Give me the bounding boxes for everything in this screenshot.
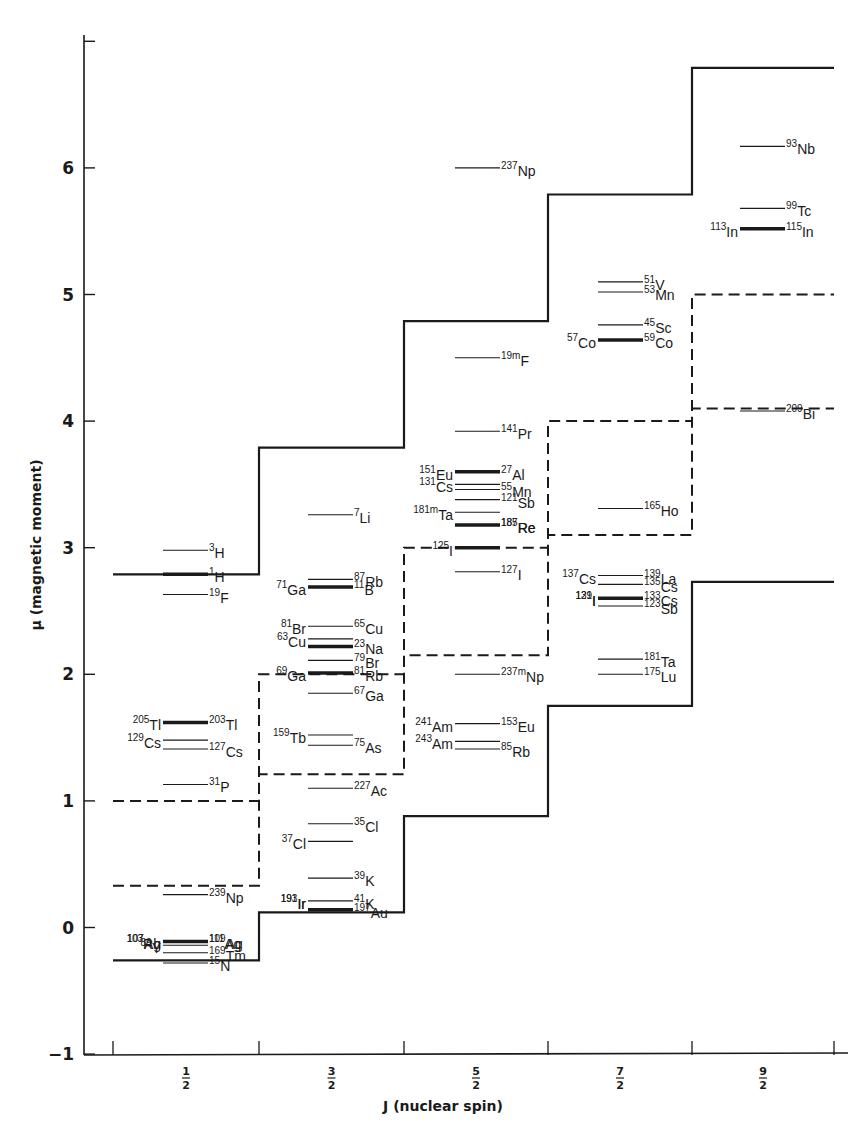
- nuclide-label-237Np: 237Np: [501, 160, 536, 179]
- y-tick-label: −1: [48, 1044, 74, 1064]
- nuclide-label-99Tc: 99Tc: [786, 200, 811, 219]
- nuclide-label-237mNp: 237mNp: [501, 666, 544, 685]
- nuclide-level: 75As: [308, 737, 381, 756]
- nuclide-level: 39K: [308, 870, 375, 889]
- nuclide-label-125I: 125I: [432, 540, 453, 559]
- schmidt-limit-lines: [113, 68, 834, 961]
- nuclide-label-89Y: 89Y: [141, 937, 162, 956]
- nuclide-level: 121Sb: [455, 492, 535, 511]
- y-axis-title: μ (magnetic moment): [28, 459, 44, 630]
- nuclide-label-19mF: 19mF: [501, 350, 529, 369]
- nuclide-level: 99Tc: [740, 200, 811, 219]
- nuclide-level: 175Lu: [598, 666, 676, 685]
- nuclide-label-113In: 113In: [710, 221, 738, 240]
- svg-text:3: 3: [328, 1065, 336, 1078]
- nuclide-label-121Sb: 121Sb: [501, 492, 535, 511]
- nuclide-level: 237Np: [455, 160, 536, 179]
- nuclide-label-57Co: 57Co: [567, 332, 596, 351]
- nuclide-label-3H: 3H: [209, 542, 225, 561]
- nuclide-label-127I: 127I: [501, 564, 522, 583]
- nuclide-level: 127I: [455, 564, 522, 583]
- nuclide-label-243Am: 243Am: [415, 733, 453, 752]
- nuclide-label-65Cu: 65Cu: [354, 618, 383, 637]
- schmidt-line-dashed-lower: [113, 408, 834, 885]
- nuclide-label-153Eu: 153Eu: [501, 716, 535, 735]
- nuclide-level: 71Ga11B: [276, 579, 374, 598]
- nuclide-label-129Cs: 129Cs: [127, 732, 161, 751]
- nuclide-level: 53Mn: [598, 284, 675, 303]
- x-tick-label-3-2: 32: [328, 1065, 336, 1092]
- svg-text:2: 2: [759, 1079, 767, 1092]
- nuclide-label-75As: 75As: [354, 737, 381, 756]
- nuclide-label-7Li: 7Li: [354, 507, 370, 526]
- nuclide-level: 125I: [432, 540, 500, 559]
- nuclide-level: 181mTa: [413, 504, 500, 523]
- nuclide-level: 197Au: [308, 902, 388, 921]
- nuclide-level: 93Nb: [740, 138, 815, 157]
- schmidt-line-solid-upper: [113, 68, 834, 574]
- nuclide-label-53Mn: 53Mn: [644, 284, 675, 303]
- nuclide-level: 159Tb: [273, 727, 353, 746]
- nuclide-levels: 3H1H19F205Tl203Tl129Cs127Cs31P239Np103Rh…: [126, 138, 815, 974]
- nuclide-level: 127Cs: [163, 741, 243, 760]
- nuclide-level: 57Co59Co: [567, 332, 673, 351]
- y-tick-label: 4: [62, 411, 74, 431]
- nuclide-level: 113In115In: [710, 221, 813, 240]
- nuclide-level: 31P: [163, 776, 229, 795]
- nuclide-label-159Tb: 159Tb: [273, 727, 306, 746]
- nuclide-label-131I: 131I: [575, 590, 596, 609]
- nuclide-label-115In: 115In: [786, 221, 814, 240]
- nuclide-label-165Ho: 165Ho: [644, 500, 679, 519]
- nuclide-label-241Am: 241Am: [415, 716, 453, 735]
- nuclide-level: 141Pr: [455, 423, 532, 442]
- nuclide-level: 237mNp: [455, 666, 544, 685]
- nuclide-label-123Sb: 123Sb: [644, 598, 678, 617]
- nuclide-level: 67Ga: [308, 685, 384, 704]
- nuclide-label-193Ir: 193Ir: [281, 893, 307, 912]
- nuclide-level: 19F: [163, 587, 229, 606]
- nuclide-level: 205Tl203Tl: [133, 714, 238, 733]
- svg-text:2: 2: [472, 1079, 480, 1092]
- svg-text:5: 5: [472, 1065, 480, 1078]
- nuclide-label-63Cu: 63Cu: [277, 631, 306, 650]
- nuclide-label-59Co: 59Co: [644, 332, 673, 351]
- nuclide-label-11B: 11B: [354, 579, 374, 598]
- nuclide-label-131Cs: 131Cs: [419, 476, 453, 495]
- svg-text:2: 2: [616, 1079, 624, 1092]
- nuclide-label-67Ga: 67Ga: [354, 685, 384, 704]
- y-ticks: −10123456: [48, 41, 95, 1064]
- svg-text:9: 9: [759, 1065, 767, 1078]
- nuclide-level: 129Cs: [127, 732, 208, 751]
- nuclide-label-197Au: 197Au: [354, 902, 388, 921]
- y-tick-label: 1: [62, 791, 74, 811]
- svg-text:1: 1: [182, 1065, 190, 1078]
- nuclide-label-35Cl: 35Cl: [354, 816, 378, 835]
- y-tick-label: 3: [62, 538, 74, 558]
- nuclide-label-69Ga: 69Ga: [276, 665, 306, 684]
- nuclide-level: 85Rb: [455, 741, 530, 760]
- nuclide-level: 209Bi: [740, 403, 815, 422]
- nuclide-level: 37Cl: [282, 833, 353, 852]
- nuclide-label-31P: 31P: [209, 776, 229, 795]
- nuclide-level: 181Ta: [598, 651, 676, 670]
- nuclide-level: 131Cs: [419, 476, 500, 495]
- y-tick-label: 5: [62, 285, 74, 305]
- nuclide-level: 185Re187Re: [455, 517, 536, 536]
- x-tick-label-1-2: 12: [182, 1065, 190, 1092]
- nuclide-level: 19mF: [455, 350, 529, 369]
- y-tick-label: 2: [62, 664, 74, 684]
- x-tick-label-9-2: 92: [759, 1065, 767, 1092]
- nuclide-level: 241Am153Eu: [415, 716, 535, 735]
- nuclide-level: 35Cl: [308, 816, 378, 835]
- nuclide-level: 45Sc: [598, 317, 671, 336]
- nuclide-label-93Nb: 93Nb: [786, 138, 815, 157]
- nuclide-level: 3H: [163, 542, 225, 561]
- schmidt-line-solid-lower: [113, 582, 834, 961]
- nuclide-level: 165Ho: [598, 500, 679, 519]
- x-ticks: 1232527292: [113, 1041, 834, 1092]
- svg-text:2: 2: [182, 1079, 190, 1092]
- x-tick-label-5-2: 52: [472, 1065, 480, 1092]
- x-axis: 1232527292: [84, 1041, 848, 1092]
- nuclide-label-227Ac: 227Ac: [354, 780, 387, 799]
- nuclide-label-85Rb: 85Rb: [501, 741, 530, 760]
